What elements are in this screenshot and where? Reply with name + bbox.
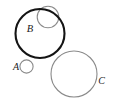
label-c: C	[98, 75, 105, 86]
circle-a	[20, 60, 33, 73]
tangent-circles-diagram: B A C	[0, 0, 116, 112]
circle-b	[16, 9, 65, 58]
circle-c	[51, 51, 97, 97]
figure-container: B A C	[0, 0, 116, 112]
label-b: B	[27, 23, 34, 34]
label-a: A	[12, 61, 20, 72]
